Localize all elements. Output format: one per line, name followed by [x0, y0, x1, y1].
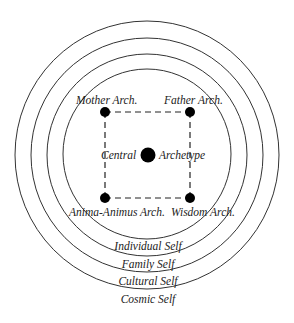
label-archetype: Archetype: [158, 149, 205, 162]
label-father-archetype: Father Arch.: [163, 94, 223, 106]
self-archetype-diagram: Mother Arch. Father Arch. Central Archet…: [0, 0, 294, 323]
label-cultural-self: Cultural Self: [118, 275, 179, 288]
label-family-self: Family Self: [121, 258, 176, 271]
node-wisdom-archetype: [185, 193, 195, 203]
node-central-archetype: [141, 148, 156, 163]
label-mother-archetype: Mother Arch.: [75, 94, 137, 106]
node-mother-archetype: [100, 107, 110, 117]
label-anima-animus-archetype: Anima-Animus Arch.: [68, 206, 165, 218]
label-central: Central: [101, 149, 136, 161]
label-wisdom-archetype: Wisdom Arch.: [171, 206, 235, 218]
node-father-archetype: [185, 107, 195, 117]
node-anima-animus-archetype: [100, 193, 110, 203]
label-individual-self: Individual Self: [113, 240, 183, 253]
label-cosmic-self: Cosmic Self: [121, 293, 177, 306]
